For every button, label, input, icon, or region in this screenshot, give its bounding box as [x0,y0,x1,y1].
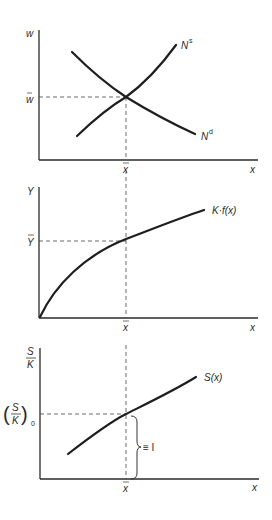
svg-text:x: x [122,322,129,333]
svg-text:K: K [27,359,35,370]
svg-text:0: 0 [31,420,35,427]
svg-text:d: d [209,128,213,135]
equilibrium-output-label: Y [27,235,35,248]
equilibrium-x-label: x [122,482,129,494]
production-curve-label: K·f(x) [212,205,236,216]
demand-curve [72,52,195,134]
y-axis-label: w [26,28,34,39]
panel-production: Y x Y x K·f(x) [27,170,258,333]
x-axis-label: x [249,322,256,333]
equilibrium-wage-label: w [26,93,34,105]
svg-text:N: N [201,131,209,142]
svg-text:s: s [189,37,193,44]
x-axis-label: x [249,164,256,175]
svg-text:w: w [26,94,34,105]
savings-curve [68,377,196,454]
diagram-canvas: w x w x N s N d Y x [0,0,272,520]
investment-brace-label: ≡ I [143,442,154,453]
equilibrium-x-label: x [122,321,129,333]
savings-curve-label: S(x) [204,372,222,383]
svg-text:S: S [12,402,19,413]
svg-text:x: x [122,164,129,175]
svg-text:(: ( [3,403,10,425]
svg-text:K: K [12,415,20,426]
demand-curve-label: N d [201,128,213,142]
panel-labor-market: w x w x N s N d [26,28,258,175]
supply-curve-label: N s [181,37,193,51]
svg-text:x: x [122,483,129,494]
y-axis-label: S K [26,346,36,370]
production-curve [40,210,204,317]
svg-text:): ) [21,403,28,425]
supply-curve [77,45,176,136]
panel-savings: S K x ( S K ) 0 x S(x) ≡ I [3,345,259,494]
x-axis-label: x [251,482,258,493]
y-axis-label: Y [27,186,35,197]
svg-text:Y: Y [27,237,35,248]
equilibrium-savings-label: ( S K ) 0 [3,402,35,427]
svg-text:N: N [181,40,189,51]
investment-brace [131,416,141,479]
svg-text:S: S [27,346,34,357]
equilibrium-x-label: x [122,163,129,175]
